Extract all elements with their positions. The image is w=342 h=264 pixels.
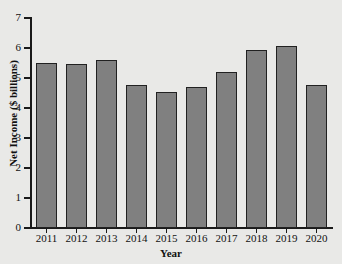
x-tick-label-2016: 2016 (180, 233, 214, 244)
bar-2012 (66, 64, 87, 228)
bar-2019 (276, 46, 297, 228)
y-tick-6: 6 (24, 47, 31, 49)
x-tick-label-2011: 2011 (30, 233, 64, 244)
y-tick-5: 5 (24, 77, 31, 79)
chart-title-cropped (0, 0, 342, 1)
bar-2020 (306, 85, 327, 228)
y-tick-1: 1 (24, 197, 31, 199)
x-tick-label-2012: 2012 (60, 233, 94, 244)
bar-2013 (96, 60, 117, 228)
y-tick-3: 3 (24, 137, 31, 139)
bar-2018 (246, 50, 267, 229)
x-axis-label: Year (0, 248, 342, 259)
y-axis-label: Net Income ($ billions) (8, 39, 19, 189)
x-tick-label-2019: 2019 (270, 233, 304, 244)
y-tick-4: 4 (24, 107, 31, 109)
x-tick-label-2020: 2020 (300, 233, 334, 244)
x-tick-label-2014: 2014 (120, 233, 154, 244)
bar-2016 (186, 87, 207, 228)
y-tick-7: 7 (24, 17, 31, 19)
y-tick-label: 0 (16, 222, 22, 233)
y-tick-2: 2 (24, 167, 31, 169)
bar-chart-figure: 01234567 2011201220132014201520162017201… (0, 0, 342, 264)
y-tick-0: 0 (24, 227, 31, 229)
bar-2011 (36, 63, 57, 228)
x-tick-label-2013: 2013 (90, 233, 124, 244)
bar-2017 (216, 72, 237, 228)
y-tick-label: 7 (16, 12, 22, 23)
x-tick-label-2018: 2018 (240, 233, 274, 244)
bar-2015 (156, 92, 177, 229)
x-tick-label-2017: 2017 (210, 233, 244, 244)
x-tick-label-2015: 2015 (150, 233, 184, 244)
bar-2014 (126, 85, 147, 228)
y-tick-label: 1 (16, 192, 22, 203)
plot-area (31, 18, 331, 228)
